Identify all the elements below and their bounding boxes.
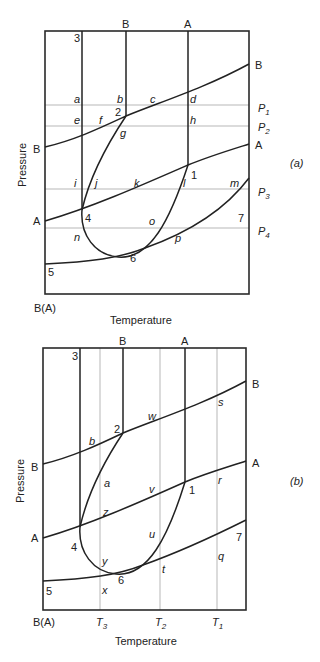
panel-label: (a) — [290, 157, 304, 169]
left-label-B: B — [33, 143, 40, 155]
panel-label: (b) — [290, 475, 304, 487]
letter-a: a — [104, 477, 110, 489]
isotherm-label-t1: T1 — [212, 616, 223, 631]
letter-k: k — [134, 177, 140, 189]
letter-p: p — [174, 232, 181, 244]
point-4: 4 — [71, 541, 77, 553]
corner-label: B(A) — [33, 616, 55, 628]
letter-w: w — [148, 410, 157, 422]
y-axis-label: Pressure — [14, 459, 26, 503]
point-3: 3 — [74, 32, 80, 44]
letter-r: r — [218, 474, 223, 486]
point-7: 7 — [236, 531, 242, 543]
right-label-A: A — [252, 457, 260, 469]
corner-label: B(A) — [34, 302, 56, 314]
letter-b: b — [89, 435, 95, 447]
isobar-label-p1: P1 — [258, 102, 270, 117]
letter-g: g — [120, 127, 127, 139]
plot-frame-a — [45, 31, 249, 294]
letter-z: z — [102, 506, 109, 518]
isotherm-label-t2: T2 — [155, 616, 167, 631]
x-axis-label: Temperature — [115, 635, 177, 647]
right-label-A: A — [255, 139, 263, 151]
letter-l: l — [183, 177, 186, 189]
letter-n: n — [74, 231, 80, 243]
letter-c: c — [150, 93, 156, 105]
curve-A — [43, 461, 246, 538]
letter-f: f — [99, 114, 103, 126]
curve-4-6-1 — [80, 482, 185, 574]
letter-u: u — [149, 528, 155, 540]
letter-s: s — [218, 396, 224, 408]
diagram-a: B A B A B A 1 2 3 4 5 6 7 P1 P2 P3 P4 a … — [16, 18, 304, 326]
point-6: 6 — [130, 252, 136, 264]
point-1: 1 — [189, 484, 195, 496]
curve-B — [45, 64, 249, 147]
left-label-A: A — [31, 532, 39, 544]
point-5: 5 — [46, 585, 52, 597]
letter-o: o — [149, 215, 155, 227]
point-4: 4 — [85, 212, 91, 224]
letter-y: y — [101, 555, 109, 567]
point-6: 6 — [118, 574, 124, 586]
letter-i: i — [74, 177, 77, 189]
point-2: 2 — [115, 106, 121, 118]
curve-B — [43, 381, 246, 464]
top-label-A: A — [184, 18, 192, 30]
left-label-B: B — [31, 461, 38, 473]
letter-e: e — [74, 114, 80, 126]
plot-frame-b — [43, 348, 246, 610]
isobar-label-p2: P2 — [258, 121, 270, 136]
phase-diagram-figure: B A B A B A 1 2 3 4 5 6 7 P1 P2 P3 P4 a … — [0, 0, 320, 662]
letter-d: d — [190, 93, 197, 105]
x-axis-label: Temperature — [110, 314, 172, 326]
point-2: 2 — [114, 423, 120, 435]
letter-x: x — [101, 584, 108, 596]
curve-2-4 — [80, 433, 123, 527]
left-label-A: A — [33, 215, 41, 227]
right-label-B: B — [255, 59, 262, 71]
isobar-label-p4: P4 — [258, 225, 270, 240]
letter-t: t — [162, 563, 166, 575]
letter-b: b — [117, 93, 123, 105]
letter-m: m — [230, 177, 239, 189]
point-3: 3 — [72, 350, 78, 362]
right-label-B: B — [252, 378, 259, 390]
isobar-label-p3: P3 — [258, 186, 270, 201]
y-axis-label: Pressure — [16, 143, 28, 187]
point-5: 5 — [48, 266, 54, 278]
top-label-B: B — [122, 18, 129, 30]
top-label-A: A — [181, 335, 189, 347]
letter-q: q — [218, 550, 225, 562]
point-7: 7 — [238, 212, 244, 224]
curve-5-6-7 — [45, 178, 249, 264]
letter-v: v — [149, 483, 156, 495]
letter-a: a — [74, 93, 80, 105]
diagram-b: B A B A B A 1 2 3 4 5 6 7 a b q r s t u … — [14, 335, 304, 647]
letter-j: j — [93, 177, 98, 189]
letter-h: h — [190, 114, 196, 126]
point-1: 1 — [191, 169, 197, 181]
isotherm-label-t3: T3 — [96, 616, 108, 631]
top-label-B: B — [119, 335, 126, 347]
